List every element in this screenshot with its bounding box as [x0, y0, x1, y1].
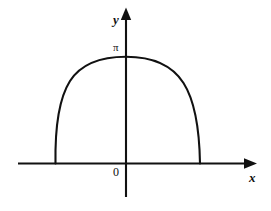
- y-axis-label: y: [113, 13, 119, 26]
- y-axis-tick-label-pi: π: [113, 42, 119, 53]
- math-figure: y x π 0: [0, 0, 271, 211]
- x-axis-label: x: [249, 171, 256, 184]
- origin-label: 0: [113, 166, 119, 178]
- x-axis-arrow-icon: [244, 158, 257, 169]
- dome-curve: [55, 57, 200, 164]
- coordinate-plot: [0, 0, 271, 211]
- y-axis-arrow-icon: [121, 8, 131, 21]
